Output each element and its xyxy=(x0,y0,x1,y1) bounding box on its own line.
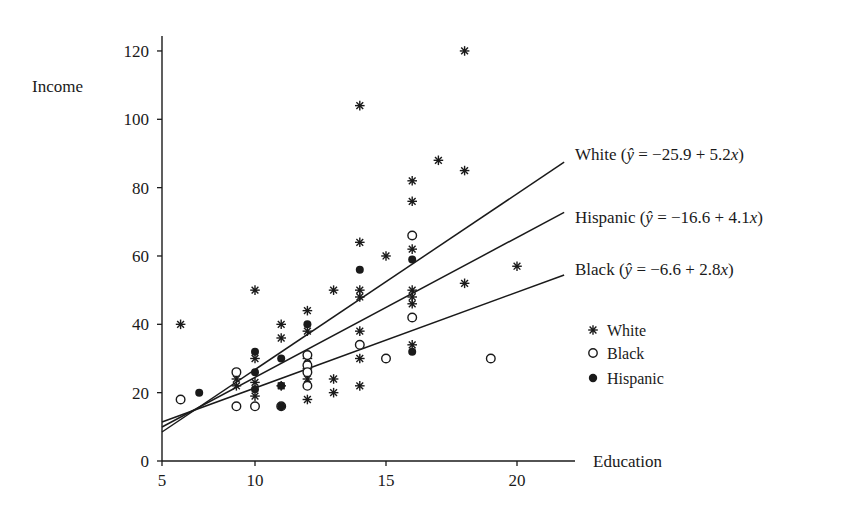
point-white xyxy=(276,333,286,343)
point-white xyxy=(355,354,365,364)
point-white xyxy=(407,244,417,254)
point-black xyxy=(487,354,496,363)
y-tick-label: 20 xyxy=(132,384,149,403)
point-hispanic xyxy=(251,385,259,393)
point-hispanic xyxy=(251,348,259,356)
point-hispanic xyxy=(277,354,285,362)
y-tick-label: 40 xyxy=(132,315,149,334)
legend-label-hispanic: Hispanic xyxy=(607,370,664,388)
point-hispanic xyxy=(277,382,285,390)
point-black xyxy=(303,368,312,377)
point-hispanic xyxy=(408,348,416,356)
point-white xyxy=(355,326,365,336)
point-white xyxy=(355,292,365,302)
point-white xyxy=(250,285,260,295)
legend: White Black Hispanic xyxy=(588,322,664,388)
point-white xyxy=(381,251,391,261)
point-black xyxy=(382,354,391,363)
legend-label-black: Black xyxy=(607,345,644,362)
x-tick-label: 10 xyxy=(247,471,264,490)
legend-label-white: White xyxy=(607,322,646,339)
y-tick-label: 0 xyxy=(141,452,150,471)
point-white xyxy=(329,374,339,384)
point-white xyxy=(232,381,242,391)
point-hispanic xyxy=(277,402,285,410)
open-circle-icon xyxy=(589,349,597,357)
point-white xyxy=(460,279,470,289)
x-axis-label: Education xyxy=(593,452,662,471)
y-tick-label: 100 xyxy=(124,110,150,129)
axes xyxy=(162,36,575,461)
point-white xyxy=(329,285,339,295)
x-ticks: 5101520 xyxy=(158,461,526,490)
filled-circle-icon xyxy=(589,374,597,382)
point-white xyxy=(407,299,417,309)
point-hispanic xyxy=(251,368,259,376)
point-black xyxy=(408,231,417,240)
asterisk-icon xyxy=(588,325,598,335)
point-white xyxy=(460,166,470,176)
point-black xyxy=(232,368,241,377)
point-black xyxy=(303,351,312,360)
asterisk-icon xyxy=(588,325,598,335)
x-tick-label: 20 xyxy=(509,471,526,490)
point-white xyxy=(460,46,470,56)
point-hispanic xyxy=(356,266,364,274)
point-white xyxy=(407,197,417,207)
point-black xyxy=(303,382,312,391)
point-white xyxy=(276,320,286,330)
y-tick-label: 60 xyxy=(132,247,149,266)
point-white xyxy=(407,176,417,186)
point-white xyxy=(355,381,365,391)
y-axis-label: Income xyxy=(32,77,83,96)
point-black xyxy=(408,313,417,322)
point-black xyxy=(356,341,365,350)
point-white xyxy=(434,156,444,166)
data-points xyxy=(176,46,522,410)
x-tick-label: 5 xyxy=(158,471,167,490)
point-hispanic xyxy=(408,255,416,263)
regression-line-hispanic xyxy=(162,212,564,427)
black-line-label: Black (ŷ = −6.6 + 2.8x) xyxy=(575,260,734,279)
point-white xyxy=(176,320,186,330)
point-black xyxy=(176,395,185,404)
scatter-chart: 020406080100120 5101520 Income Education… xyxy=(0,0,856,525)
point-hispanic xyxy=(303,320,311,328)
point-white xyxy=(355,101,365,111)
point-white xyxy=(512,261,522,271)
hispanic-line-label: Hispanic (ŷ = −16.6 + 4.1x) xyxy=(575,208,763,227)
x-tick-label: 15 xyxy=(378,471,395,490)
point-hispanic xyxy=(195,389,203,397)
point-white xyxy=(329,388,339,398)
point-white xyxy=(303,395,313,405)
white-line-label: White (ŷ = −25.9 + 5.2x) xyxy=(575,145,744,164)
point-black xyxy=(251,402,260,411)
y-tick-label: 80 xyxy=(132,179,149,198)
point-white xyxy=(355,238,365,248)
y-ticks: 020406080100120 xyxy=(124,42,163,471)
point-black xyxy=(232,402,241,411)
y-tick-label: 120 xyxy=(124,42,150,61)
point-white xyxy=(303,306,313,316)
